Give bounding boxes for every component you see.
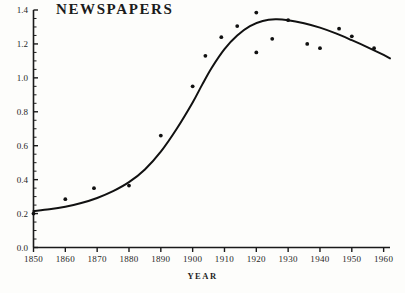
x-axis-tick-label: 1860 [56,254,75,264]
y-axis-tick-label: 0.6 [2,141,28,151]
data-point [203,54,207,58]
data-point [219,35,223,39]
y-axis-tick-label: 0.8 [2,107,28,117]
fitted-curve-path [34,19,391,211]
x-axis-tick-label: 1940 [310,254,329,264]
data-point [92,186,96,190]
data-point [318,46,322,50]
data-point [286,18,290,22]
x-axis-tick-label: 1950 [342,254,361,264]
chart-plot-area [0,0,405,293]
y-axis-tick-label: 1.4 [2,5,28,15]
x-axis-tick-label: 1920 [247,254,266,264]
y-axis-tick-label: 0.2 [2,209,28,219]
data-point [254,51,258,55]
data-point [372,46,376,50]
data-point [337,27,341,31]
y-axis-tick-label: 0.0 [2,243,28,253]
y-axis-tick-label: 1.0 [2,73,28,83]
data-point [235,24,239,28]
axes [33,10,390,248]
y-axis-tick-label: 1.2 [2,39,28,49]
x-axis-tick-label: 1900 [183,254,202,264]
data-point [254,11,258,15]
data-point [159,134,163,138]
data-point [305,42,309,46]
x-axis-tick-label: 1890 [151,254,170,264]
data-point [270,37,274,41]
x-axis-tick-label: 1850 [24,254,43,264]
chart-figure: NEWSPAPERS 0.00.20.40.60.81.01.21.4 1850… [0,0,405,293]
x-axis-tick-label: 1910 [215,254,234,264]
x-axis-title: YEAR [0,271,405,281]
data-point [63,197,67,201]
data-point [127,184,131,188]
x-axis-tick-label: 1930 [279,254,298,264]
x-axis-tick-label: 1960 [374,254,393,264]
data-point [191,84,195,88]
y-axis-tick-label: 0.4 [2,175,28,185]
data-point-markers [32,11,376,216]
data-point [350,34,354,38]
x-axis-tick-label: 1880 [119,254,138,264]
data-point [32,212,36,216]
x-axis-tick-label: 1870 [88,254,107,264]
